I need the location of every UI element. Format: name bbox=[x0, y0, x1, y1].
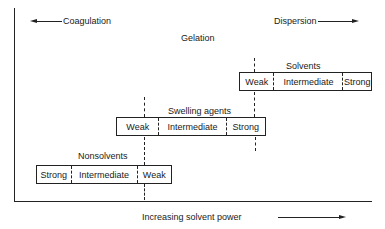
solvents-weak-guide-top bbox=[254, 58, 255, 72]
solvents-box: Weak Intermediate Strong bbox=[239, 72, 372, 91]
swelling-weak-cell: Weak bbox=[117, 118, 158, 135]
swelling-weak-guide-top bbox=[144, 97, 145, 117]
y-axis-line bbox=[14, 8, 15, 201]
nonsolvents-weak-cell: Weak bbox=[137, 166, 172, 183]
swelling-intermediate-cell: Intermediate bbox=[158, 118, 225, 135]
solvents-intermediate-cell: Intermediate bbox=[273, 73, 342, 90]
solvents-swelling-guide bbox=[254, 92, 255, 117]
x-axis-line bbox=[14, 201, 372, 202]
swelling-strong-guide-bottom bbox=[255, 137, 256, 151]
solvents-label: Solvents bbox=[286, 61, 321, 71]
nonsolvents-label: Nonsolvents bbox=[78, 151, 128, 161]
swelling-strong-cell: Strong bbox=[226, 118, 265, 135]
dispersion-label: Dispersion bbox=[274, 16, 317, 26]
solvents-strong-cell: Strong bbox=[342, 73, 371, 90]
solvents-weak-cell: Weak bbox=[240, 73, 273, 90]
nonsolvents-intermediate-cell: Intermediate bbox=[71, 166, 137, 183]
nonsolvents-strong-cell: Strong bbox=[37, 166, 71, 183]
swelling-nonsolvent-guide bbox=[144, 137, 145, 165]
swelling-agents-box: Weak Intermediate Strong bbox=[116, 117, 266, 136]
swelling-agents-label: Swelling agents bbox=[168, 106, 231, 116]
x-axis-label: Increasing solvent power bbox=[142, 212, 242, 222]
coagulation-label: Coagulation bbox=[63, 16, 111, 26]
nonsolvents-box: Strong Intermediate Weak bbox=[36, 165, 172, 184]
gelation-label: Gelation bbox=[181, 33, 215, 43]
nonsolvent-weak-guide-bottom bbox=[144, 184, 145, 200]
